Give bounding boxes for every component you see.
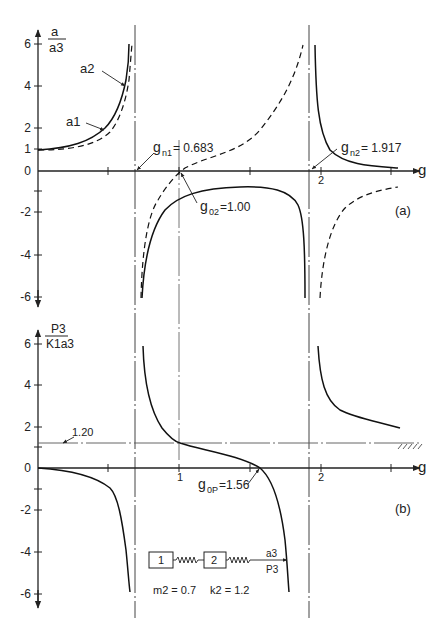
y-axis-label-a: a a3	[48, 24, 66, 55]
panel-label-a: (a)	[395, 203, 411, 218]
x-tick-2-b: 2	[318, 471, 324, 483]
curve-p3-right	[318, 346, 400, 428]
y-axis-label-b: P3 K1a3	[45, 322, 74, 351]
svg-text:2: 2	[24, 420, 31, 434]
svg-text:-2: -2	[20, 503, 31, 517]
svg-text:g: g	[341, 139, 349, 155]
x-axis-label-b: g	[418, 458, 426, 475]
svg-text:g: g	[200, 198, 208, 214]
y-tick-labels-b: 6 4 2 0 -2 -4 -6	[20, 337, 31, 601]
pointer-a2	[102, 71, 125, 86]
svg-text:g: g	[153, 139, 161, 155]
x-axis-label-a: g	[418, 161, 426, 178]
svg-text:=1.56: =1.56	[219, 478, 250, 492]
svg-text:= 1.917: = 1.917	[361, 141, 402, 155]
spring-2	[226, 557, 254, 563]
annotation-g0p: g 0P =1.56	[198, 469, 259, 495]
spring-1	[173, 557, 204, 563]
mass-spring-diagram: 1 2 a3 P3 m2 = 0.7 k2 = 1.2	[149, 548, 287, 596]
curve-a2	[38, 44, 132, 150]
svg-text:-2: -2	[20, 205, 31, 219]
curve-p3-left	[38, 468, 130, 592]
svg-text:a3: a3	[266, 548, 278, 559]
annotation-gn1: g n1 = 0.683	[137, 139, 214, 170]
panel-a: 6 4 2 1 0 -2 -4 -6 2 g a a3	[20, 24, 426, 618]
svg-text:02: 02	[209, 207, 219, 217]
svg-text:1: 1	[158, 554, 164, 566]
svg-text:m2 = 0.7: m2 = 0.7	[153, 584, 196, 596]
reference-label: 1.20	[72, 426, 93, 438]
panel-label-b: (b)	[395, 501, 411, 516]
x-tick-1-b: 1	[177, 471, 183, 483]
label-a1: a1	[66, 114, 80, 129]
svg-text:-6: -6	[20, 587, 31, 601]
ground-hatch	[398, 444, 422, 449]
curve-a2-right	[320, 187, 398, 298]
curve-a1	[38, 44, 129, 150]
svg-text:-4: -4	[20, 248, 31, 262]
svg-text:k2 = 1.2: k2 = 1.2	[210, 584, 249, 596]
svg-text:n1: n1	[162, 148, 172, 158]
svg-text:a: a	[51, 24, 59, 39]
svg-text:4: 4	[24, 79, 31, 93]
svg-text:4: 4	[24, 378, 31, 392]
svg-text:=1.00: =1.00	[220, 200, 251, 214]
panel-b: 1.20 6 4 2 0 -2 -4 -6	[20, 322, 426, 608]
svg-text:a3: a3	[49, 40, 63, 55]
svg-text:0P: 0P	[207, 485, 218, 495]
y-tick-labels-a: 6 4 2 1 0 -2 -4 -6	[20, 37, 31, 304]
pointer-a1	[86, 123, 104, 130]
svg-text:-4: -4	[20, 545, 31, 559]
svg-text:K1a3: K1a3	[46, 337, 74, 351]
label-a2: a2	[80, 61, 94, 76]
x-tick-2-a: 2	[318, 174, 324, 186]
annotation-g02: g 02 =1.00	[181, 173, 251, 217]
svg-text:0: 0	[24, 461, 31, 475]
svg-text:6: 6	[24, 337, 31, 351]
svg-text:2: 2	[211, 554, 217, 566]
svg-text:-6: -6	[20, 290, 31, 304]
svg-text:n2: n2	[350, 148, 360, 158]
svg-text:6: 6	[24, 37, 31, 51]
svg-text:P3: P3	[266, 564, 279, 575]
pointer-ref	[63, 437, 74, 443]
svg-text:1: 1	[24, 142, 31, 156]
svg-text:= 0.683: = 0.683	[173, 141, 214, 155]
figure: 6 4 2 1 0 -2 -4 -6 2 g a a3	[0, 0, 442, 618]
annotation-gn2: g n2 = 1.917	[312, 139, 402, 169]
svg-text:2: 2	[24, 121, 31, 135]
svg-text:0: 0	[24, 164, 31, 178]
svg-text:g: g	[198, 476, 206, 492]
svg-text:P3: P3	[51, 322, 66, 336]
